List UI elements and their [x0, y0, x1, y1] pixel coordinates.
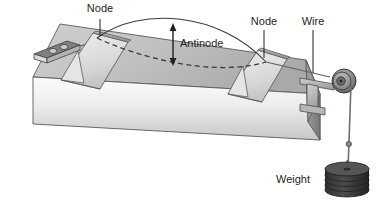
label-weight: Weight [276, 173, 310, 185]
standing-wave-diagram: Node Node Wire Antinode Weight [0, 0, 376, 209]
pulley-axle [339, 79, 342, 82]
oscillator-dial-1 [49, 48, 57, 53]
wire-segment-vertical [348, 84, 351, 170]
wire-hook-knot [346, 141, 351, 146]
label-node-right: Node [251, 15, 277, 27]
oscillator-dial-2 [60, 44, 68, 49]
figure-canvas: Node Node Wire Antinode Weight [0, 0, 376, 209]
weight-center-hole [344, 167, 351, 170]
weight-stack [325, 160, 369, 197]
antinode-arrow-head-up [170, 23, 177, 31]
label-antinode: Antinode [180, 37, 223, 49]
label-wire: Wire [302, 15, 325, 27]
label-node-left: Node [87, 2, 113, 14]
